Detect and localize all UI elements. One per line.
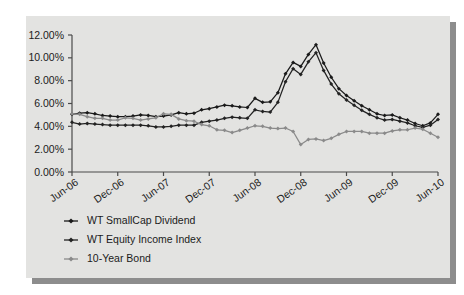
line-chart: 0.00%2.00%4.00%6.00%8.00%10.00%12.00% Ju… bbox=[26, 16, 450, 278]
y-axis-labels: 0.00%2.00%4.00%6.00%8.00%10.00%12.00% bbox=[28, 29, 64, 178]
legend-item[interactable]: WT SmallCap Dividend bbox=[64, 214, 196, 226]
data-point-marker bbox=[70, 120, 74, 124]
data-point-marker bbox=[162, 125, 166, 129]
data-point-marker bbox=[139, 118, 143, 122]
legend-label: 10-Year Bond bbox=[87, 252, 151, 264]
axis-lines bbox=[68, 35, 438, 176]
x-axis-labels: Jun-06Dec-06Jun-07Dec-07Jun-08Dec-08Jun-… bbox=[47, 176, 446, 205]
x-axis-tick-label: Dec-06 bbox=[91, 176, 126, 205]
data-point-marker bbox=[230, 115, 234, 119]
data-point-marker bbox=[245, 126, 249, 130]
legend-marker-icon bbox=[68, 218, 73, 223]
data-point-marker bbox=[238, 128, 242, 132]
data-point-marker bbox=[360, 129, 364, 133]
x-axis-tick-label: Dec-08 bbox=[274, 176, 309, 205]
data-point-marker bbox=[131, 116, 135, 120]
series-layer bbox=[70, 43, 440, 147]
x-axis-tick-label: Jun-07 bbox=[138, 176, 171, 204]
data-point-marker bbox=[383, 118, 387, 122]
data-point-marker bbox=[215, 105, 219, 109]
data-point-marker bbox=[398, 119, 402, 123]
data-point-marker bbox=[85, 115, 89, 119]
data-point-marker bbox=[383, 113, 387, 117]
data-point-marker bbox=[207, 119, 211, 123]
data-point-marker bbox=[238, 105, 242, 109]
data-point-marker bbox=[177, 123, 181, 127]
legend-label: WT SmallCap Dividend bbox=[87, 214, 196, 226]
data-point-marker bbox=[390, 113, 394, 117]
data-point-marker bbox=[261, 109, 265, 113]
data-point-marker bbox=[146, 124, 150, 128]
data-point-marker bbox=[177, 111, 181, 115]
x-axis-tick-label: Jun-10 bbox=[413, 176, 446, 204]
chart-panel: 0.00%2.00%4.00%6.00%8.00%10.00%12.00% Ju… bbox=[26, 16, 450, 278]
data-point-marker bbox=[184, 112, 188, 116]
data-point-marker bbox=[101, 116, 105, 120]
data-point-marker bbox=[93, 116, 97, 120]
data-point-marker bbox=[253, 124, 257, 128]
data-point-marker bbox=[261, 124, 265, 128]
data-point-marker bbox=[184, 119, 188, 123]
data-point-marker bbox=[139, 113, 143, 117]
y-axis-tick-label: 8.00% bbox=[34, 74, 64, 86]
data-point-marker bbox=[398, 128, 402, 132]
y-axis-tick-label: 6.00% bbox=[34, 97, 64, 109]
data-point-marker bbox=[284, 126, 288, 130]
y-axis-tick-label: 0.00% bbox=[34, 166, 64, 178]
data-point-marker bbox=[215, 118, 219, 122]
data-point-marker bbox=[268, 126, 272, 130]
data-point-marker bbox=[322, 139, 326, 143]
data-point-marker bbox=[238, 116, 242, 120]
data-point-marker bbox=[390, 129, 394, 133]
data-point-marker bbox=[93, 112, 97, 116]
data-point-marker bbox=[230, 104, 234, 108]
series-line bbox=[72, 45, 438, 126]
x-axis-tick-label: Dec-09 bbox=[366, 176, 401, 205]
data-point-marker bbox=[139, 123, 143, 127]
series-1 bbox=[70, 43, 440, 128]
data-point-marker bbox=[398, 116, 402, 120]
data-point-marker bbox=[200, 108, 204, 112]
legend-item[interactable]: WT Equity Income Index bbox=[64, 233, 202, 245]
data-point-marker bbox=[192, 111, 196, 115]
legend-marker-icon bbox=[68, 256, 73, 261]
data-point-marker bbox=[223, 116, 227, 120]
data-point-marker bbox=[192, 123, 196, 127]
data-point-marker bbox=[230, 131, 234, 135]
data-point-marker bbox=[375, 116, 379, 120]
data-point-marker bbox=[192, 119, 196, 123]
data-point-marker bbox=[85, 121, 89, 125]
data-point-marker bbox=[375, 131, 379, 135]
legend-item[interactable]: 10-Year Bond bbox=[64, 252, 151, 264]
data-point-marker bbox=[108, 123, 112, 127]
data-point-marker bbox=[154, 125, 158, 129]
data-point-marker bbox=[101, 123, 105, 127]
data-point-marker bbox=[93, 122, 97, 126]
data-point-marker bbox=[116, 115, 120, 119]
data-point-marker bbox=[406, 128, 410, 132]
legend-label: WT Equity Income Index bbox=[87, 233, 202, 245]
data-point-marker bbox=[169, 124, 173, 128]
data-point-marker bbox=[70, 112, 74, 116]
data-point-marker bbox=[383, 131, 387, 135]
y-axis-tick-label: 4.00% bbox=[34, 120, 64, 132]
data-point-marker bbox=[223, 128, 227, 132]
data-point-marker bbox=[223, 103, 227, 107]
data-point-marker bbox=[352, 129, 356, 133]
chart-legend: WT SmallCap DividendWT Equity Income Ind… bbox=[64, 214, 202, 264]
y-axis-tick-label: 10.00% bbox=[28, 51, 64, 63]
data-point-marker bbox=[146, 113, 150, 117]
x-axis-tick-label: Jun-09 bbox=[321, 176, 354, 204]
data-point-marker bbox=[207, 107, 211, 111]
y-axis-tick-label: 12.00% bbox=[28, 29, 64, 41]
data-point-marker bbox=[367, 131, 371, 135]
data-point-marker bbox=[146, 117, 150, 121]
series-line bbox=[72, 114, 438, 145]
x-axis-tick-label: Dec-07 bbox=[183, 176, 218, 205]
data-point-marker bbox=[406, 121, 410, 125]
data-point-marker bbox=[276, 127, 280, 131]
data-point-marker bbox=[116, 123, 120, 127]
data-point-marker bbox=[345, 129, 349, 133]
screenshot-root: 0.00%2.00%4.00%6.00%8.00%10.00%12.00% Ju… bbox=[0, 0, 464, 295]
data-point-marker bbox=[116, 118, 120, 122]
